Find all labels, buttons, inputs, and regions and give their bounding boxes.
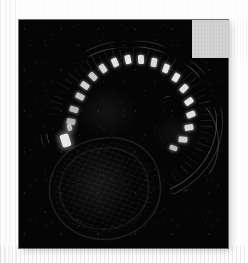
somite-block [178, 136, 187, 143]
scan-noise-bottom-edge [0, 246, 248, 263]
somite-striation [201, 120, 212, 121]
gray-occluder [192, 20, 230, 58]
ghost-caption-text [52, 1, 202, 14]
somite-block [138, 55, 144, 64]
scan-noise-left-margin [0, 0, 19, 263]
page-root [0, 0, 248, 263]
